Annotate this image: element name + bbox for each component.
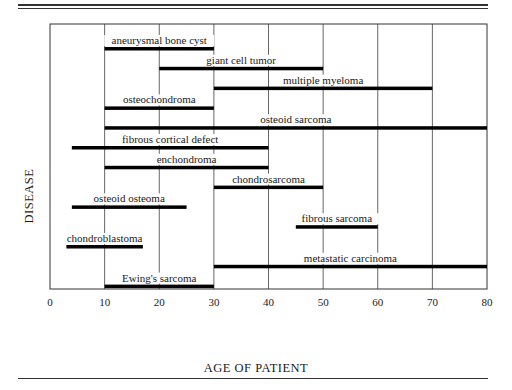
disease-bars: aneurysmal bone cystgiant cell tumormult… (63, 34, 487, 288)
range-bar (105, 126, 487, 130)
range-bar (72, 205, 187, 209)
bar-label: metastatic carcinoma (304, 252, 397, 264)
disease-age-range-chart: aneurysmal bone cystgiant cell tumormult… (0, 0, 512, 390)
bar-label: Ewing's sarcoma (122, 272, 196, 284)
bar-label: osteoid osteoma (94, 192, 165, 204)
x-tick-label: 30 (208, 296, 220, 308)
bar-label: chondroblastoma (67, 232, 143, 244)
x-tick-label: 60 (372, 296, 384, 308)
bar-label: chondrosarcoma (232, 173, 305, 185)
y-axis-title: DISEASE (22, 169, 36, 224)
range-bar (214, 87, 433, 91)
x-tick-label: 80 (482, 296, 494, 308)
x-tick-label: 10 (99, 296, 111, 308)
range-bar (105, 47, 214, 51)
range-bar (105, 285, 214, 289)
x-axis-title: AGE OF PATIENT (204, 361, 308, 375)
range-bar (66, 245, 142, 249)
range-bar (72, 146, 269, 150)
bar-label: osteoid sarcoma (260, 113, 331, 125)
bar-label: enchondroma (157, 153, 217, 165)
range-bar (159, 67, 323, 71)
range-bar (105, 166, 269, 170)
x-tick-label: 50 (318, 296, 330, 308)
range-bar (296, 225, 378, 229)
x-tick-label: 0 (47, 296, 53, 308)
x-axis-ticks: 01020304050607080 (47, 296, 493, 308)
bar-label: fibrous sarcoma (302, 212, 373, 224)
x-tick-label: 70 (427, 296, 439, 308)
bar-label: multiple myeloma (283, 74, 363, 86)
bar-label: fibrous cortical defect (122, 133, 219, 145)
range-bar (214, 265, 487, 269)
x-tick-label: 20 (154, 296, 166, 308)
x-tick-label: 40 (263, 296, 275, 308)
range-bar (105, 106, 214, 110)
bar-label: aneurysmal bone cyst (112, 34, 207, 46)
bar-label: giant cell tumor (206, 54, 276, 66)
bar-label: osteochondroma (123, 93, 196, 105)
range-bar (214, 186, 323, 190)
